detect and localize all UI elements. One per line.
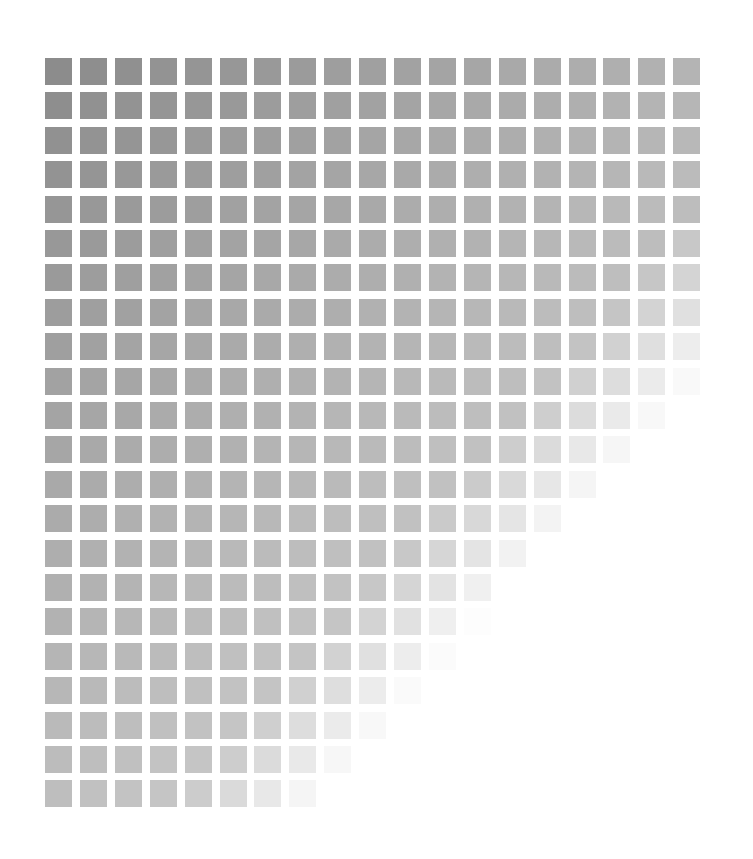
grid-square (45, 333, 72, 360)
grid-square (394, 471, 421, 498)
grid-square (254, 264, 281, 291)
grid-square (499, 333, 526, 360)
grid-square (80, 608, 107, 635)
grid-square (394, 643, 421, 670)
grid-square (359, 643, 386, 670)
grid-square (115, 264, 142, 291)
grid-square (115, 333, 142, 360)
grid-square (220, 643, 247, 670)
grid-square (603, 402, 630, 429)
grid-square (115, 712, 142, 739)
grid-square (499, 161, 526, 188)
grid-square (429, 608, 456, 635)
grid-square (115, 643, 142, 670)
grid-square (324, 58, 351, 85)
grid-square (569, 196, 596, 223)
grid-square (569, 402, 596, 429)
grid-square (638, 127, 665, 154)
grid-square (324, 677, 351, 704)
grid-square (45, 643, 72, 670)
grid-square (220, 540, 247, 567)
grid-square (324, 264, 351, 291)
grid-square (80, 127, 107, 154)
grid-square (185, 264, 212, 291)
grid-square (603, 92, 630, 119)
grid-square (80, 299, 107, 326)
grid-square (359, 574, 386, 601)
grid-square (603, 436, 630, 463)
grid-square (464, 264, 491, 291)
grid-square (464, 402, 491, 429)
grid-square (254, 58, 281, 85)
grid-square (324, 608, 351, 635)
grid-square (603, 161, 630, 188)
grid-square (534, 264, 561, 291)
grid-square (324, 161, 351, 188)
grid-square (150, 608, 177, 635)
grid-square (220, 402, 247, 429)
grid-square (80, 264, 107, 291)
grid-square (499, 196, 526, 223)
grid-square (359, 92, 386, 119)
grid-square (394, 368, 421, 395)
grid-square (45, 471, 72, 498)
grid-square (254, 92, 281, 119)
grid-square (45, 505, 72, 532)
grid-square (429, 333, 456, 360)
grid-square (289, 368, 316, 395)
grid-square (220, 436, 247, 463)
grid-square (289, 333, 316, 360)
grid-square (324, 299, 351, 326)
grid-square (80, 230, 107, 257)
grid-square (150, 540, 177, 567)
grid-square (185, 712, 212, 739)
grid-square (324, 230, 351, 257)
grid-square (45, 436, 72, 463)
grid-square (499, 92, 526, 119)
grid-square (394, 92, 421, 119)
grid-square (464, 608, 491, 635)
grid-square (289, 92, 316, 119)
grid-square (254, 540, 281, 567)
grid-square (638, 196, 665, 223)
grid-square (464, 333, 491, 360)
grid-square (534, 402, 561, 429)
grid-square (115, 299, 142, 326)
grid-square (289, 471, 316, 498)
grid-square (185, 677, 212, 704)
grid-square (220, 574, 247, 601)
grid-square (150, 264, 177, 291)
grid-square (289, 127, 316, 154)
grid-square (394, 540, 421, 567)
grid-square (150, 299, 177, 326)
grid-square (185, 368, 212, 395)
grid-square (499, 299, 526, 326)
grid-square (569, 92, 596, 119)
grid-square (150, 368, 177, 395)
grid-square (324, 712, 351, 739)
grid-square (220, 746, 247, 773)
grid-square (429, 161, 456, 188)
grid-square (185, 402, 212, 429)
grid-square (254, 608, 281, 635)
grid-square (289, 574, 316, 601)
grid-square (603, 127, 630, 154)
grid-square (45, 677, 72, 704)
grid-square (45, 196, 72, 223)
grid-square (45, 746, 72, 773)
grid-square (534, 368, 561, 395)
grid-square (185, 127, 212, 154)
grid-square (45, 540, 72, 567)
grid-square (464, 471, 491, 498)
grid-square (45, 299, 72, 326)
grid-square (289, 299, 316, 326)
grid-square (464, 540, 491, 567)
grid-square (464, 230, 491, 257)
grid-square (324, 574, 351, 601)
grid-square (673, 333, 700, 360)
grid-square (464, 161, 491, 188)
grid-square (150, 196, 177, 223)
grid-square (464, 58, 491, 85)
grid-square (359, 230, 386, 257)
grid-square (254, 471, 281, 498)
